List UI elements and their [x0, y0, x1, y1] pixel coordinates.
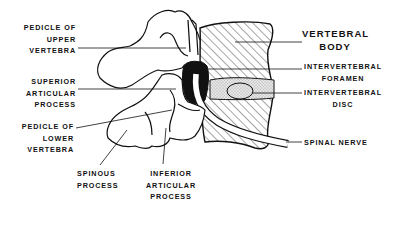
label-spinal-nerve: SPINAL NERVE	[304, 137, 368, 149]
label-vertebral-body: VERTEBRAL BODY	[302, 28, 368, 53]
label-line: LOWER	[22, 133, 74, 145]
label-superior-articular-process: SUPERIOR ARTICULAR PROCESS	[26, 76, 76, 111]
label-line: VERTEBRAL	[302, 28, 368, 41]
label-line: INTERVERTEBRAL	[302, 61, 384, 73]
label-line: VERTEBRA	[24, 45, 76, 57]
label-line: SPINAL NERVE	[304, 137, 368, 149]
label-line: ARTICULAR	[145, 180, 197, 192]
label-line: SPINOUS	[77, 168, 118, 180]
label-pedicle-of-upper-vertebra: PEDICLE OF UPPER VERTEBRA	[24, 22, 76, 57]
label-line: PROCESS	[77, 180, 118, 192]
label-line: PROCESS	[145, 191, 197, 203]
label-line: SUPERIOR	[26, 76, 76, 88]
label-line: PROCESS	[26, 99, 76, 111]
label-line: UPPER	[24, 34, 76, 46]
label-line: PEDICLE OF	[24, 22, 76, 34]
label-line: PEDICLE OF	[22, 121, 74, 133]
label-inferior-articular-process: INFERIOR ARTICULAR PROCESS	[145, 168, 197, 203]
label-line: ARTICULAR	[26, 88, 76, 100]
label-intervertebral-foramen: INTERVERTEBRAL FORAMEN	[302, 61, 384, 84]
label-line: INTERVERTEBRAL	[302, 87, 384, 99]
label-pedicle-of-lower-vertebra: PEDICLE OF LOWER VERTEBRA	[22, 121, 74, 156]
label-line: BODY	[302, 41, 368, 54]
label-line: INFERIOR	[145, 168, 197, 180]
label-line: VERTEBRA	[22, 144, 74, 156]
intervertebral-disc	[210, 78, 274, 100]
label-spinous-process: SPINOUS PROCESS	[77, 168, 118, 191]
label-intervertebral-disc: INTERVERTEBRAL DISC	[302, 87, 384, 110]
label-line: DISC	[302, 99, 384, 111]
label-line: FORAMEN	[302, 73, 384, 85]
